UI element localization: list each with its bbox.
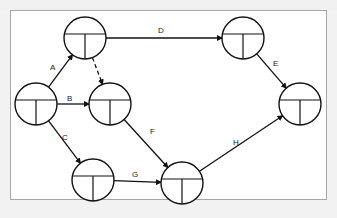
activity-label-a: A (50, 63, 56, 72)
event-node (15, 83, 57, 125)
dummy-activity-arrow (92, 58, 102, 85)
event-node (89, 83, 131, 125)
activity-arrow-h (199, 116, 282, 172)
activity-arrow-c (49, 121, 81, 163)
activity-label-b: B (67, 94, 72, 103)
activity-label-f: F (150, 127, 155, 136)
network-diagram: ABCDEFGH (0, 0, 337, 218)
event-node (222, 17, 264, 59)
activity-label-h: H (233, 138, 239, 147)
event-node (72, 159, 114, 201)
activity-label-d: D (158, 26, 164, 35)
activity-label-g: G (132, 170, 138, 179)
activity-arrow-g (114, 181, 161, 183)
event-node (161, 162, 203, 204)
activity-label-e: E (273, 59, 278, 68)
event-node (64, 17, 106, 59)
activity-label-c: C (62, 133, 68, 142)
activity-arrow-f (124, 120, 168, 168)
event-node (279, 83, 321, 125)
activity-arrow-e (257, 54, 287, 88)
